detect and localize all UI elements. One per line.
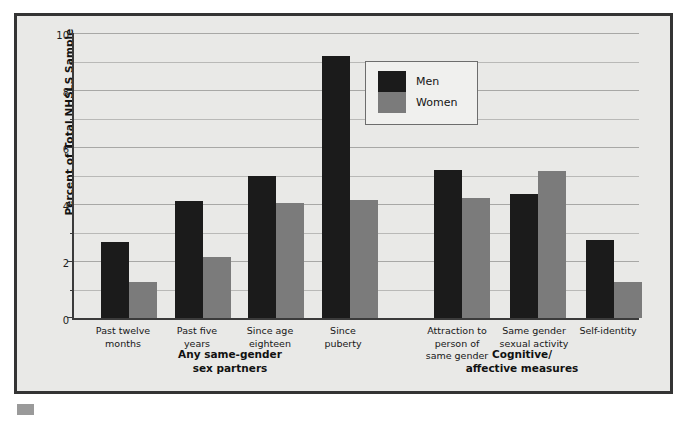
bar-women-1 bbox=[203, 257, 231, 318]
y-tick-2 bbox=[67, 261, 74, 262]
legend-label-men: Men bbox=[416, 76, 439, 88]
bar-women-3 bbox=[350, 200, 378, 318]
bar-men-5 bbox=[510, 194, 538, 318]
legend-swatch-women bbox=[378, 92, 406, 113]
y-tick-label-2: 2 bbox=[43, 259, 69, 269]
category-label-line1: Since bbox=[298, 325, 388, 338]
y-tick-4 bbox=[67, 204, 74, 205]
category-label-line3: same gender bbox=[411, 350, 503, 363]
group-label-line2: affective measures bbox=[417, 362, 627, 376]
bar-men-1 bbox=[175, 201, 203, 318]
bar-women-0 bbox=[129, 282, 157, 318]
y-tick-0 bbox=[67, 317, 74, 318]
category-label-self-identity: Self-identity bbox=[563, 325, 653, 338]
group-label-any-same-gender-sex-partners: Any same-gender sex partners bbox=[125, 348, 335, 375]
legend: Men Women bbox=[365, 61, 478, 125]
y-tick-10 bbox=[67, 33, 74, 34]
bar-women-4 bbox=[462, 198, 490, 318]
bar-men-0 bbox=[101, 242, 129, 318]
figure-canvas: 10 8 6 4 2 0 Percent of Total NHSLS Samp… bbox=[0, 0, 688, 421]
category-label-since-puberty: Since puberty bbox=[298, 325, 388, 350]
bars-layer bbox=[74, 33, 639, 318]
bar-women-2 bbox=[276, 203, 304, 318]
bar-men-2 bbox=[248, 176, 276, 319]
group-label-line2: sex partners bbox=[125, 362, 335, 376]
plot-area bbox=[72, 33, 639, 320]
bar-men-4 bbox=[434, 170, 462, 318]
bar-women-6 bbox=[614, 282, 642, 318]
bar-men-6 bbox=[586, 240, 614, 318]
y-tick-label-0: 0 bbox=[43, 316, 69, 326]
y-tick-6 bbox=[67, 147, 74, 148]
bar-women-5 bbox=[538, 171, 566, 318]
bar-men-3 bbox=[322, 56, 350, 318]
legend-swatch-men bbox=[378, 71, 406, 92]
category-label-line1: Self-identity bbox=[563, 325, 653, 338]
y-tick-8 bbox=[67, 90, 74, 91]
group-label-line1: Any same-gender bbox=[125, 348, 335, 362]
legend-label-women: Women bbox=[416, 97, 457, 109]
category-label-line2: sexual activity bbox=[487, 338, 581, 351]
category-label-line2: puberty bbox=[298, 338, 388, 351]
footnote-marker-square bbox=[17, 404, 34, 415]
